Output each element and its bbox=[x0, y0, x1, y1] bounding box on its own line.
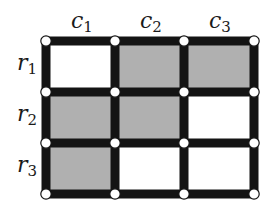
node-2-2 bbox=[179, 138, 189, 148]
cell-r1-c3 bbox=[184, 41, 254, 92]
cell-r2-c1 bbox=[46, 92, 115, 143]
column-label-c1: c1 bbox=[71, 8, 93, 36]
cell-r1-c1 bbox=[46, 41, 115, 92]
row-label-r2: r2 bbox=[17, 101, 37, 129]
cell-r3-c1 bbox=[46, 143, 115, 194]
column-label-c3: c3 bbox=[209, 8, 231, 36]
node-3-3 bbox=[249, 189, 259, 199]
cell-r2-c2 bbox=[115, 92, 184, 143]
grid-diagram: c1 c2 c3 r1 r2 r3 bbox=[0, 0, 274, 209]
node-2-0 bbox=[41, 138, 51, 148]
node-0-2 bbox=[179, 36, 189, 46]
node-1-2 bbox=[179, 87, 189, 97]
cell-r3-c3 bbox=[184, 143, 254, 194]
row-label-r1: r1 bbox=[17, 50, 37, 78]
grid-cells bbox=[46, 41, 254, 194]
node-1-3 bbox=[249, 87, 259, 97]
row-label-r3: r3 bbox=[17, 152, 37, 180]
node-3-2 bbox=[179, 189, 189, 199]
cell-r3-c2 bbox=[115, 143, 184, 194]
node-0-1 bbox=[110, 36, 120, 46]
node-1-1 bbox=[110, 87, 120, 97]
node-3-1 bbox=[110, 189, 120, 199]
cell-r2-c3 bbox=[184, 92, 254, 143]
node-0-0 bbox=[41, 36, 51, 46]
node-2-3 bbox=[249, 138, 259, 148]
cell-r1-c2 bbox=[115, 41, 184, 92]
node-1-0 bbox=[41, 87, 51, 97]
node-0-3 bbox=[249, 36, 259, 46]
column-label-c2: c2 bbox=[140, 8, 162, 36]
node-2-1 bbox=[110, 138, 120, 148]
node-3-0 bbox=[41, 189, 51, 199]
